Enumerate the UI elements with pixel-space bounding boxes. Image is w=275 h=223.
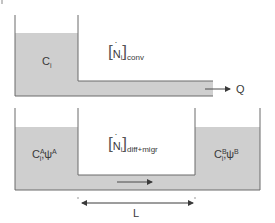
length-l-label: L [133, 208, 139, 219]
convective-flux-label: [ Ni ] conv [108, 43, 144, 60]
diffusion-migration-flux-label: [ Ni ] diff+migr [108, 135, 158, 152]
outflow-q-label: Q [236, 84, 245, 95]
right-reservoir-label: CBi,ψB [214, 149, 239, 160]
top-reservoir-concentration-label: Ci [42, 56, 52, 67]
diagram-canvas [0, 0, 275, 223]
left-reservoir-label: CAi,ψA [32, 149, 57, 160]
